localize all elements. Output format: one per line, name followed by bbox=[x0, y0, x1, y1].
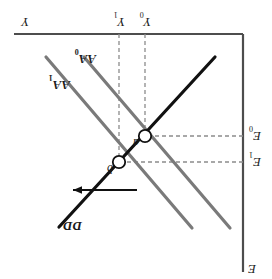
tick-label-e1-main: E bbox=[253, 155, 261, 170]
tick-label-e0-sub: 0 bbox=[249, 124, 253, 133]
dd-aa-diagram: Y E Y0 Y1 E0 E1 DD AA0 AA1 bbox=[0, 0, 272, 279]
curve-label-aa1-sub: 1 bbox=[49, 73, 53, 82]
curve-label-dd: DD bbox=[63, 220, 82, 233]
tick-label-e1-sub: 1 bbox=[249, 150, 253, 159]
equilibrium-marker-b bbox=[113, 156, 125, 168]
curve-label-aa1-main: AA bbox=[53, 78, 70, 93]
shift-arrow bbox=[73, 186, 137, 194]
tick-label-e0-main: E bbox=[253, 129, 261, 144]
point-label-b: b bbox=[107, 163, 113, 175]
tick-label-y1: Y1 bbox=[114, 12, 125, 29]
curve-label-aa0: AA0 bbox=[75, 49, 96, 66]
point-label-a: a bbox=[133, 137, 139, 149]
tick-label-y1-sub: 1 bbox=[114, 10, 118, 19]
tick-label-e1: E1 bbox=[249, 152, 261, 169]
curve-label-aa0-sub: 0 bbox=[75, 47, 79, 56]
curve-label-aa0-main: AA bbox=[79, 52, 96, 67]
figure-canvas: Y E Y0 Y1 E0 E1 DD AA0 AA1 bbox=[0, 0, 272, 279]
tick-label-y0-sub: 0 bbox=[140, 10, 144, 19]
axis-label-exchange-rate: E bbox=[248, 263, 256, 276]
curve-label-dd-main: DD bbox=[63, 219, 82, 234]
tick-label-y0-main: Y bbox=[144, 15, 151, 30]
tick-label-y0: Y0 bbox=[140, 12, 151, 29]
tick-label-e0: E0 bbox=[249, 126, 261, 143]
equilibrium-marker-a bbox=[139, 130, 151, 142]
curve-label-aa1: AA1 bbox=[49, 75, 70, 92]
curve-aa1 bbox=[84, 57, 230, 228]
axis-label-output: Y bbox=[22, 16, 29, 29]
tick-label-y1-main: Y bbox=[118, 15, 125, 30]
